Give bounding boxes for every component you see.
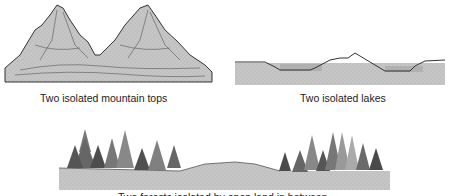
lakes-illustration xyxy=(235,53,445,85)
caption-forests: Two forests isolated by open land in bet… xyxy=(118,191,328,196)
left-forest xyxy=(67,129,181,170)
caption-lakes: Two isolated lakes xyxy=(300,92,386,104)
right-forest xyxy=(279,132,383,172)
forests-illustration xyxy=(59,129,390,190)
mountains-illustration xyxy=(5,5,212,82)
caption-mountains: Two isolated mountain tops xyxy=(40,92,167,104)
